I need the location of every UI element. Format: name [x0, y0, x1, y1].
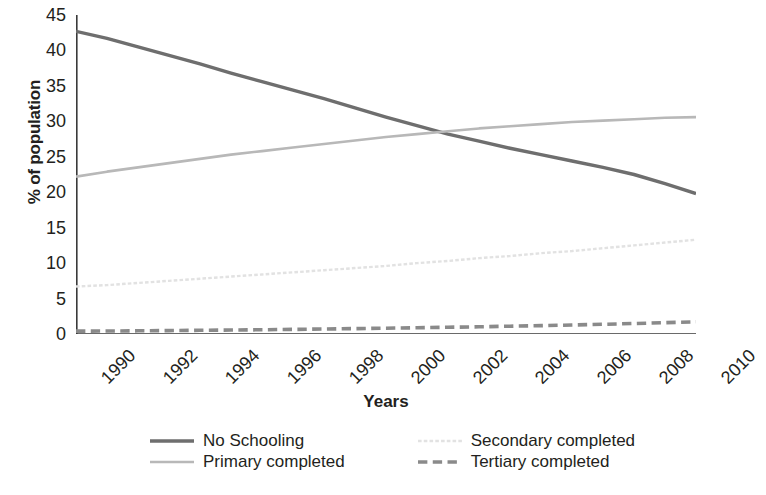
- dashed-gray-line-swatch: [418, 455, 462, 469]
- legend-label: Secondary completed: [471, 432, 635, 449]
- x-axis-tick-label: 1998: [346, 346, 387, 387]
- x-axis-title: Years: [76, 392, 696, 412]
- legend-item[interactable]: No Schooling: [150, 432, 400, 449]
- x-axis-tick-label: 1990: [98, 346, 139, 387]
- legend-item[interactable]: Primary completed: [150, 453, 400, 470]
- x-axis-tick-label: 1994: [222, 346, 263, 387]
- x-axis-tick-label: 2010: [718, 346, 759, 387]
- legend-label: No Schooling: [203, 432, 304, 449]
- legend-label: Primary completed: [203, 453, 345, 470]
- x-axis-tick-labels: 1990199219941996199820002002200420062008…: [0, 0, 766, 430]
- solid-dark-line-swatch: [150, 434, 194, 448]
- x-axis-tick-label: 2008: [656, 346, 697, 387]
- x-axis-tick-label: 2000: [408, 346, 449, 387]
- solid-light-line-swatch: [150, 455, 194, 469]
- legend-item[interactable]: Tertiary completed: [418, 453, 690, 470]
- legend-label: Tertiary completed: [471, 453, 610, 470]
- dotted-light-line-swatch: [418, 434, 462, 448]
- legend-item[interactable]: Secondary completed: [418, 432, 690, 449]
- x-axis-tick-label: 2002: [470, 346, 511, 387]
- x-axis-tick-label: 1996: [284, 346, 325, 387]
- chart-legend: No SchoolingSecondary completedPrimary c…: [150, 432, 690, 470]
- chart-figure: % of population 051015202530354045 19901…: [0, 0, 766, 495]
- x-axis-tick-label: 2006: [594, 346, 635, 387]
- x-axis-tick-label: 1992: [160, 346, 201, 387]
- x-axis-tick-label: 2004: [532, 346, 573, 387]
